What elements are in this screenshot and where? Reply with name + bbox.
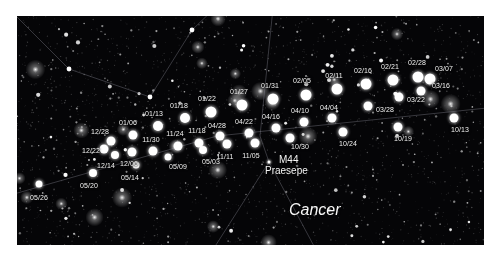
date-label: 04/28	[208, 122, 226, 130]
date-label: 01/22	[198, 95, 216, 103]
date-label: 04/22	[235, 118, 253, 126]
date-label: 01/06	[119, 119, 137, 127]
m44-cluster-marker	[268, 161, 271, 164]
date-label: 05/14	[121, 174, 139, 182]
date-label: 04/10	[291, 107, 309, 115]
date-label: 03/07	[435, 65, 453, 73]
deep-sky-object-label: M44Praesepe	[279, 154, 308, 176]
date-label: 12/06	[120, 160, 138, 168]
date-label: 02/05	[293, 77, 311, 85]
date-label: 02/21	[381, 63, 399, 71]
date-label: 01/31	[261, 82, 279, 90]
date-label: 11/24	[166, 130, 184, 138]
date-label: 03/16	[432, 82, 450, 90]
deep-sky-object-common-name: Praesepe	[265, 165, 308, 176]
date-label: 05/09	[169, 163, 187, 171]
date-label: 12/22	[82, 147, 100, 155]
date-label: 04/16	[262, 113, 280, 121]
date-label: 02/16	[354, 67, 372, 75]
constellation-name-label: Cancer	[289, 201, 341, 219]
date-label: 10/19	[394, 135, 412, 143]
date-label: 03/22	[407, 96, 425, 104]
date-label: 10/13	[451, 126, 469, 134]
date-label: 01/18	[170, 102, 188, 110]
date-label: 12/28	[91, 128, 109, 136]
date-label: 11/18	[188, 127, 206, 135]
date-label: 05/20	[80, 182, 98, 190]
date-label: 11/11	[217, 153, 234, 161]
labels-layer: 05/2605/2005/1405/0905/0312/0612/1412/22…	[17, 16, 484, 245]
date-label: 12/14	[97, 162, 115, 170]
date-label: 11/05	[242, 152, 260, 160]
date-label: 10/30	[291, 143, 309, 151]
star-chart: 05/2605/2005/1405/0905/0312/0612/1412/22…	[17, 16, 484, 245]
date-label: 02/28	[408, 59, 426, 67]
date-label: 04/04	[320, 104, 338, 112]
date-label: 01/13	[145, 110, 163, 118]
deep-sky-object-catalog-id: M44	[279, 154, 308, 165]
date-label: 05/26	[30, 194, 48, 202]
date-label: 03/28	[376, 106, 394, 114]
date-label: 10/24	[339, 140, 357, 148]
date-label: 01/27	[230, 88, 248, 96]
date-label: 11/30	[142, 136, 160, 144]
date-label: 02/11	[325, 72, 343, 80]
